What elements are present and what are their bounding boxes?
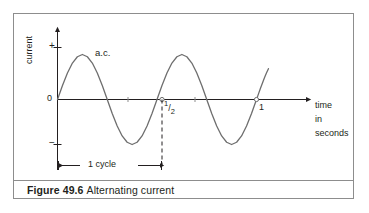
fraction-numerator: 1	[164, 99, 168, 108]
cycle-span-label: 1 cycle	[88, 159, 116, 169]
y-tick-label-plus: +	[49, 41, 55, 51]
y-tick-label-zero: 0	[47, 93, 52, 103]
y-axis-label: current	[24, 36, 34, 64]
x-axis-label-line3: seconds	[315, 128, 349, 138]
y-axis	[54, 32, 62, 170]
figure-container: current + 0 − a.c. 1/2 1 time in seconds…	[0, 0, 369, 213]
x-tick-label-one: 1	[259, 102, 264, 112]
figure-caption: Figure 49.6Alternating current	[27, 183, 174, 197]
caption-title: Alternating current	[87, 184, 175, 196]
marker-one-second	[254, 97, 258, 101]
x-tick-label-half: 1/2	[164, 100, 175, 116]
x-axis	[58, 97, 307, 102]
caption-divider	[14, 180, 353, 181]
waveform-label: a.c.	[95, 48, 110, 58]
caption-figure-number: Figure 49.6	[27, 184, 84, 196]
x-axis-label-line1: time	[315, 100, 332, 110]
alternating-current-plot	[0, 0, 369, 213]
x-axis-label-line2: in	[315, 114, 322, 124]
y-tick-label-minus: −	[49, 138, 55, 148]
fraction-denominator: 2	[171, 107, 175, 116]
